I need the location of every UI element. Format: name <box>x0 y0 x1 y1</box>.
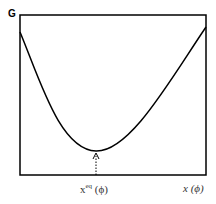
y-axis-label: G <box>8 8 16 19</box>
x-axis-label: x (ϕ) <box>183 182 204 194</box>
xeq-label: xeq (ϕ) <box>80 182 108 195</box>
chart-canvas <box>0 0 216 204</box>
plot-frame <box>20 15 206 175</box>
g-curve <box>20 27 206 151</box>
